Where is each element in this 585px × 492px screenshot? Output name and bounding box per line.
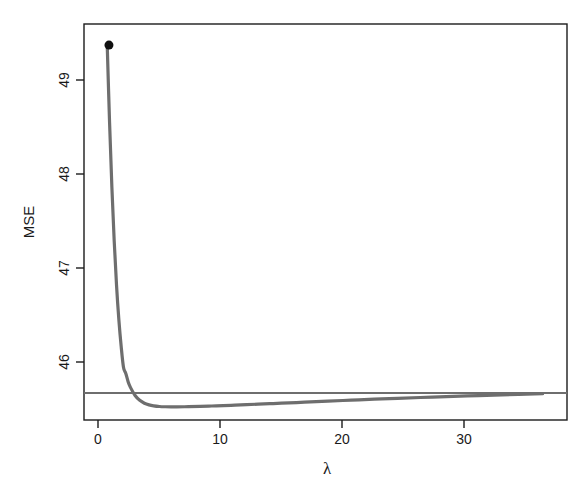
x-tick-label-10: 10 [212,431,228,447]
x-tick-label-30: 30 [456,431,472,447]
y-tick-label-47: 47 [56,260,72,276]
y-tick-label-48: 48 [56,166,72,182]
y-tick-label-49: 49 [56,72,72,88]
x-tick-label-0: 0 [94,431,102,447]
y-axis-title: MSE [20,206,37,239]
x-axis-ticks [98,420,464,428]
x-axis-title: λ [323,459,332,478]
x-tick-label-20: 20 [334,431,350,447]
plot-frame [84,24,567,420]
y-axis-ticks [76,80,84,362]
minimum-lambda-marker [104,41,113,50]
y-axis-tick-labels: 49 48 47 46 [56,72,72,370]
mse-vs-lambda-plot: 49 48 47 46 MSE 0 10 20 30 λ [0,0,585,492]
mse-curve [107,45,542,407]
x-axis-tick-labels: 0 10 20 30 [94,431,472,447]
y-tick-label-46: 46 [56,354,72,370]
data-layer [84,41,567,407]
chart-figure: 49 48 47 46 MSE 0 10 20 30 λ [0,0,585,492]
